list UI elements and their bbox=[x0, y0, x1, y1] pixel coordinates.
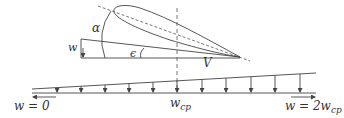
freestream-line bbox=[81, 39, 240, 57]
band-top-line bbox=[32, 73, 316, 89]
v-label: V bbox=[203, 56, 213, 70]
w-zero-label: w = 0 bbox=[14, 99, 50, 113]
epsilon-arc bbox=[140, 48, 144, 58]
downwash-arrows bbox=[57, 74, 300, 92]
w-two-cp-label: w = 2wcp bbox=[285, 99, 342, 115]
epsilon-label: ϵ bbox=[130, 47, 136, 60]
w-cp-label: wcp bbox=[170, 96, 191, 112]
w-label: w bbox=[68, 41, 78, 54]
alpha-arc bbox=[102, 11, 111, 58]
alpha-label: α bbox=[92, 21, 100, 35]
airfoil-downwash-diagram: α ϵ w V w = 0 wcp w = 2wcp bbox=[0, 0, 344, 118]
chord-line bbox=[98, 6, 250, 61]
